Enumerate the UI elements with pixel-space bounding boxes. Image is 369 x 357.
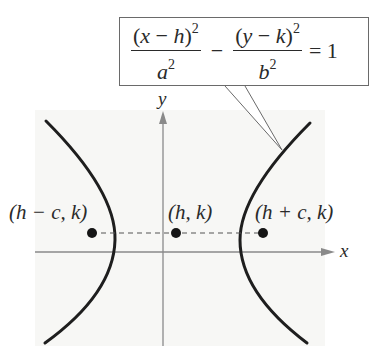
plot-background	[35, 110, 325, 346]
x-axis-arrow-icon	[321, 248, 335, 256]
term2-fraction: (y − k)2 b2	[233, 16, 302, 86]
y-axis-label: y	[158, 88, 166, 110]
term1-fraction: (x − h)2 a2	[131, 16, 201, 86]
right-focus-label: (h + c, k)	[255, 200, 333, 225]
center-point	[171, 228, 181, 238]
left-focus-point	[87, 228, 97, 238]
term2-numerator: (y − k)2	[233, 16, 302, 51]
term2-denominator: b2	[259, 51, 277, 86]
x-axis-label: x	[340, 240, 348, 262]
hyperbola-equation: (x − h)2 a2 − (y − k)2 b2 = 1	[128, 20, 345, 82]
right-focus-point	[258, 228, 268, 238]
term1-numerator: (x − h)2	[131, 16, 201, 51]
center-label: (h, k)	[168, 200, 212, 225]
term1-denominator: a2	[157, 51, 175, 86]
left-focus-label: (h − c, k)	[9, 200, 87, 225]
equals-one: = 1	[309, 38, 338, 64]
minus-operator: −	[211, 38, 223, 64]
